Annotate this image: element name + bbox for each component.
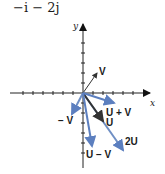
label-2u: 2U	[125, 136, 138, 147]
vector-v	[83, 73, 97, 93]
x-axis-label: x	[150, 98, 155, 108]
label-u-minus-v: U − V	[86, 149, 112, 160]
label-v: V	[99, 66, 106, 77]
y-axis-label: y	[72, 21, 79, 31]
label-u: U	[106, 117, 113, 128]
x-axis	[10, 91, 150, 95]
vector-diagram: x y V 2U U U + V − V U − V	[0, 0, 165, 174]
label-u-plus-v: U + V	[106, 107, 132, 118]
label-neg-v: − V	[58, 115, 74, 126]
